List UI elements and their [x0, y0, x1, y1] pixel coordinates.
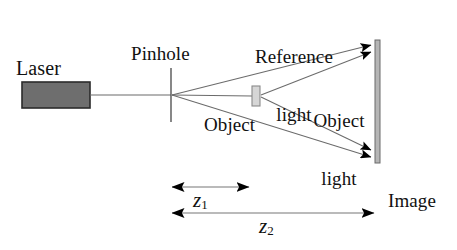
laser-box	[22, 82, 90, 108]
object-label: Object	[204, 115, 255, 134]
z1-label: z1	[193, 190, 208, 211]
object-light-label: Object light	[302, 72, 376, 227]
z1-subscript: 1	[201, 197, 208, 212]
object-light-label-line2: light	[302, 169, 376, 188]
z2-label: z2	[259, 216, 274, 237]
figure-canvas: Laser Pinhole Reference light Object lig…	[0, 0, 457, 250]
pinhole-label: Pinhole	[131, 44, 190, 63]
image-sensor-label: Image sensor	[388, 152, 457, 250]
reference-light-label-line1: Reference	[232, 47, 356, 66]
laser-label: Laser	[16, 58, 61, 78]
image-sensor-label-line1: Image	[388, 191, 457, 210]
object-light-label-line1: Object	[302, 111, 376, 130]
z2-subscript: 2	[267, 223, 274, 238]
